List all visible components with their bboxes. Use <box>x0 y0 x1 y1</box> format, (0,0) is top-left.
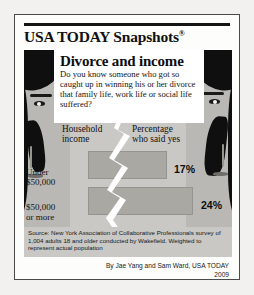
illustration-panel: Divorce and income Do you know someone w… <box>24 50 232 230</box>
value-label-under-50000: 17% <box>174 163 195 175</box>
eyebrow-icon <box>202 92 224 95</box>
bar-under-50000 <box>88 151 167 179</box>
hair-icon <box>228 68 232 218</box>
column-header-income: Household income <box>62 124 118 145</box>
registered-trademark-icon: ® <box>179 29 185 38</box>
cheek-contour-icon <box>30 146 32 168</box>
eye-highlight-icon <box>213 100 217 104</box>
table-row <box>60 184 196 218</box>
hair-icon <box>25 119 46 172</box>
masthead-divider <box>24 23 230 26</box>
row-label-50000-or-more: $50,000 or more <box>26 202 66 222</box>
source-note: Source: New York Association of Collabor… <box>28 229 228 252</box>
page-title: Divorce and income <box>60 53 208 70</box>
bar-50000-or-more <box>88 187 193 215</box>
snapshot-page: USA TODAY Snapshots® <box>0 0 254 295</box>
eye-highlight-icon <box>37 102 41 106</box>
column-header-income-line2: income <box>62 134 118 144</box>
column-header-income-line1: Household <box>62 124 118 134</box>
column-header-percentage: Percentage who said yes <box>132 124 194 145</box>
column-header-percentage-line2: who said yes <box>132 134 194 144</box>
row-label-line2: or more <box>26 212 66 222</box>
eyebrow-icon <box>30 94 52 97</box>
infographic-frame: USA TODAY Snapshots® <box>14 14 240 280</box>
byline-year: 2009 <box>106 270 229 279</box>
hair-icon <box>203 115 229 177</box>
cheek-contour-icon <box>222 144 224 166</box>
row-label-line1: $50,000 <box>26 202 66 212</box>
survey-question: Do you know someone who got so caught up… <box>60 70 202 110</box>
value-label-50000-or-more: 24% <box>201 199 222 211</box>
byline-credit: By Jae Yang and Sam Ward, USA TODAY <box>106 262 229 269</box>
masthead-title: USA TODAY Snapshots® <box>24 28 232 48</box>
byline: By Jae Yang and Sam Ward, USA TODAY 2009 <box>106 261 229 279</box>
column-header-percentage-line1: Percentage <box>132 124 194 134</box>
row-label-line1: Under <box>26 167 66 177</box>
masthead-brand: USA TODAY Snapshots <box>24 28 179 45</box>
lips-icon <box>213 172 228 176</box>
